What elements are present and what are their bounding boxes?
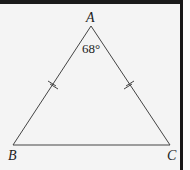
vertex-label-c: C: [167, 148, 177, 163]
apex-angle-label: 68°: [82, 41, 100, 56]
triangle-diagram: A B C 68°: [0, 0, 190, 170]
congruence-ticks-ab: [48, 81, 58, 89]
vertex-label-a: A: [85, 10, 95, 25]
diagram-stage: A B C 68°: [0, 0, 190, 170]
vertex-label-b: B: [8, 148, 17, 163]
